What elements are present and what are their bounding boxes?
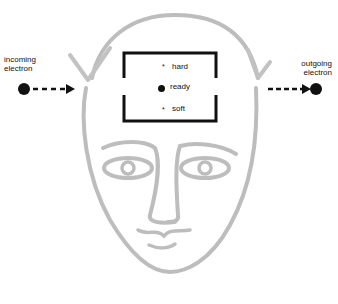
mouth-upper bbox=[138, 230, 190, 236]
soft-star-icon: * bbox=[162, 106, 165, 113]
state-soft: soft bbox=[172, 104, 185, 113]
outgoing-label-line1: outgoing bbox=[288, 59, 332, 68]
left-chevron bbox=[70, 48, 110, 80]
right-chevron-icon bbox=[248, 50, 270, 78]
hard-star-icon: * bbox=[162, 63, 165, 70]
left-brow-nose bbox=[103, 142, 175, 223]
incoming-electron-label: incoming electron bbox=[4, 55, 36, 73]
incoming-label-line2: electron bbox=[4, 64, 36, 73]
incoming-label-line1: incoming bbox=[4, 55, 36, 64]
incoming-electron-dot bbox=[18, 83, 30, 95]
outgoing-electron-label: outgoing electron bbox=[288, 59, 332, 77]
ready-dot-icon bbox=[158, 85, 165, 92]
state-ready: ready bbox=[170, 82, 190, 91]
incoming-arrowhead-icon bbox=[66, 84, 75, 94]
mouth-lower bbox=[149, 244, 175, 248]
state-hard: hard bbox=[172, 62, 188, 71]
head-outline bbox=[84, 88, 257, 272]
outgoing-arrowhead-icon bbox=[302, 84, 311, 94]
right-brow-nose bbox=[168, 144, 236, 222]
outgoing-label-line2: electron bbox=[288, 68, 332, 77]
state-box-left bbox=[124, 53, 216, 78]
outgoing-electron-dot bbox=[310, 83, 322, 95]
diagram-canvas bbox=[0, 0, 338, 304]
left-pupil bbox=[122, 162, 134, 174]
right-pupil bbox=[199, 162, 211, 174]
state-box-right bbox=[124, 95, 216, 121]
